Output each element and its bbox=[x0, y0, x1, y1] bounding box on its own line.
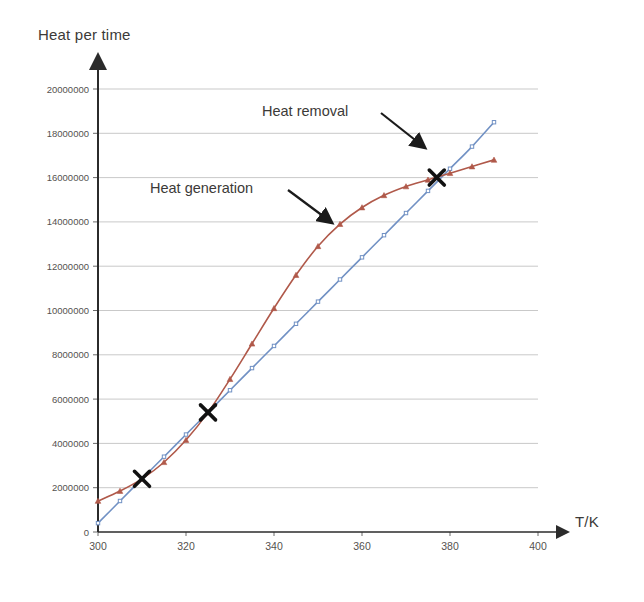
y-tick-label: 16000000 bbox=[47, 172, 89, 183]
x-tick-label: 380 bbox=[441, 540, 459, 552]
y-tick-label: 20000000 bbox=[47, 84, 89, 95]
data-point-marker bbox=[404, 211, 407, 214]
data-point-marker bbox=[228, 389, 231, 392]
annotation-arrow-heat-removal bbox=[381, 113, 424, 147]
data-point-marker bbox=[360, 256, 363, 259]
data-point-marker bbox=[250, 366, 253, 369]
series-line bbox=[98, 160, 494, 501]
x-axis-title: T/K bbox=[575, 513, 599, 530]
y-tick-label: 0 bbox=[84, 527, 89, 538]
x-tick-label: 360 bbox=[353, 540, 371, 552]
data-point-marker bbox=[184, 433, 187, 436]
y-tick-label: 14000000 bbox=[47, 216, 89, 227]
annotation-heat-removal: Heat removal bbox=[262, 103, 348, 119]
data-point-marker bbox=[426, 189, 429, 192]
annotation-arrow-heat-generation bbox=[288, 190, 331, 222]
data-point-marker bbox=[316, 300, 319, 303]
data-point-marker bbox=[338, 278, 341, 281]
x-tick-label: 300 bbox=[89, 540, 107, 552]
x-tick-label: 340 bbox=[265, 540, 283, 552]
intersection-x-marker bbox=[135, 471, 150, 486]
x-axis-ticks: 300320340360380400 bbox=[89, 532, 547, 552]
data-point-marker bbox=[162, 455, 165, 458]
x-tick-label: 320 bbox=[177, 540, 195, 552]
y-tick-label: 10000000 bbox=[47, 305, 89, 316]
data-point-marker bbox=[492, 121, 495, 124]
y-tick-label: 6000000 bbox=[52, 394, 89, 405]
y-tick-label: 12000000 bbox=[47, 261, 89, 272]
data-point-marker bbox=[118, 499, 121, 502]
x-tick-label: 400 bbox=[529, 540, 547, 552]
data-point-marker bbox=[470, 145, 473, 148]
y-axis-ticks: 0200000040000006000000800000010000000120… bbox=[47, 84, 98, 538]
y-axis-title: Heat per time bbox=[38, 26, 131, 43]
data-point-marker bbox=[96, 521, 99, 524]
plot-canvas: 0200000040000006000000800000010000000120… bbox=[0, 0, 644, 602]
data-point-marker bbox=[382, 233, 385, 236]
annotation-heat-generation: Heat generation bbox=[150, 180, 253, 196]
data-point-marker bbox=[294, 322, 297, 325]
intersection-x-marker bbox=[201, 405, 216, 420]
y-tick-label: 2000000 bbox=[52, 482, 89, 493]
chart-figure: Heat per time T/K Heat removal Heat gene… bbox=[0, 0, 644, 602]
data-point-marker bbox=[272, 344, 275, 347]
grid-lines bbox=[98, 89, 538, 488]
y-tick-label: 18000000 bbox=[47, 128, 89, 139]
series-heat-generation bbox=[95, 157, 497, 503]
y-tick-label: 8000000 bbox=[52, 349, 89, 360]
y-tick-label: 4000000 bbox=[52, 438, 89, 449]
